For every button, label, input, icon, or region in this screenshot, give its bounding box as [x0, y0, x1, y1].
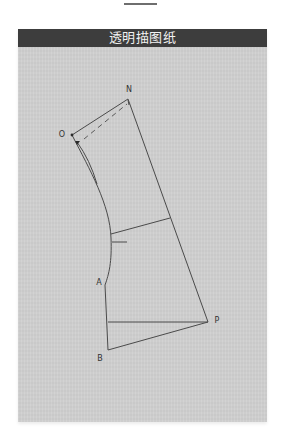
label-b: B: [97, 354, 103, 363]
edge-a-b: [105, 285, 108, 350]
dashed-guide-line: [84, 104, 127, 139]
label-o: O: [59, 130, 65, 139]
edge-n-p: [128, 99, 208, 322]
label-p: P: [215, 316, 220, 325]
cross-line: [111, 218, 170, 234]
curve-o-a: [72, 135, 111, 285]
edge-b-p: [108, 322, 208, 350]
point-o-marker: [71, 134, 74, 137]
edge-o-n: [72, 99, 128, 135]
label-a: A: [96, 278, 102, 287]
pattern-drawing: N O A B P: [0, 0, 284, 443]
label-n: N: [126, 85, 132, 94]
